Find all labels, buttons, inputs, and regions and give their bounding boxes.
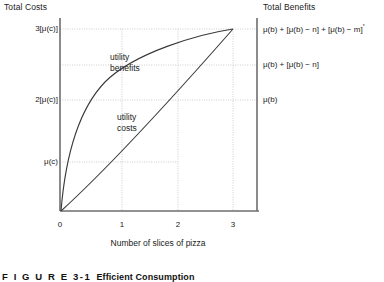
annotation-utility-benefits: utility benefits (110, 52, 140, 73)
curve-utility-costs (61, 29, 233, 211)
x-tick-2: 2 (171, 220, 185, 229)
annotation-utility-costs: utility costs (117, 112, 137, 133)
figure-container: Total Costs Total Benefits 3[μ(c)] 2[μ(c… (0, 0, 384, 282)
x-tick-1: 1 (115, 220, 129, 229)
figure-caption: F I G U R E 3-1Efficient Consumption (2, 266, 195, 282)
x-tick-0: 0 (53, 220, 67, 229)
x-axis-title: Number of slices of pizza (0, 238, 316, 248)
horizontal-gridlines (60, 29, 257, 162)
figure-caption-text: Efficient Consumption (96, 272, 194, 282)
figure-number: F I G U R E 3-1 (2, 271, 91, 282)
x-tick-3: 3 (226, 220, 240, 229)
curve-utility-benefits (61, 29, 233, 211)
